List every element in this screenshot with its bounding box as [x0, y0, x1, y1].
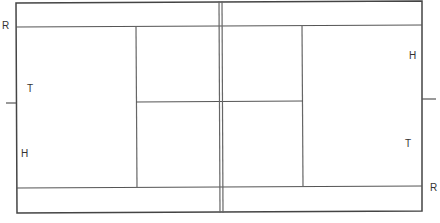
right-service-line [302, 25, 303, 186]
net-line-a [219, 1, 220, 213]
net-line-b [222, 1, 223, 213]
label-left-r: R [2, 21, 9, 31]
label-right-h: H [409, 51, 416, 61]
label-right-r: R [430, 183, 437, 193]
left-service-line [136, 27, 137, 188]
label-left-h: H [21, 149, 28, 159]
label-right-t: T [405, 139, 411, 149]
label-left-t: T [27, 84, 33, 94]
tennis-court [0, 0, 440, 223]
